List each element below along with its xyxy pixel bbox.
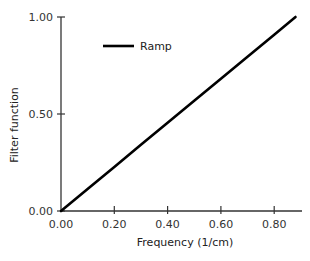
legend: Ramp (103, 40, 172, 53)
y-tick-label: 0.00 (29, 205, 54, 218)
y-axis-title: Filter function (8, 87, 21, 163)
ramp-series-line (61, 17, 296, 211)
x-tick-label: 0.60 (209, 218, 234, 231)
x-tick-label: 0.20 (102, 218, 127, 231)
legend-label-ramp: Ramp (140, 40, 172, 53)
y-tick-label: 0.50 (29, 108, 54, 121)
x-tick-label: 0.40 (155, 218, 180, 231)
x-ticks: 0.000.200.400.600.80 (49, 206, 287, 231)
y-ticks: 0.000.501.00 (29, 11, 66, 218)
y-tick-label: 1.00 (29, 11, 54, 24)
x-tick-label: 0.00 (49, 218, 74, 231)
ramp-filter-chart: 0.000.501.00 0.000.200.400.600.80 Ramp F… (0, 0, 310, 261)
x-tick-label: 0.80 (262, 218, 287, 231)
x-axis-title: Frequency (1/cm) (137, 236, 233, 249)
